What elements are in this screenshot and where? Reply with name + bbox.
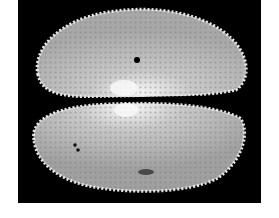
image-frame [18,0,261,203]
ostracod-photo [18,0,261,203]
upper-valve [37,9,246,97]
lower-valve [34,103,245,191]
